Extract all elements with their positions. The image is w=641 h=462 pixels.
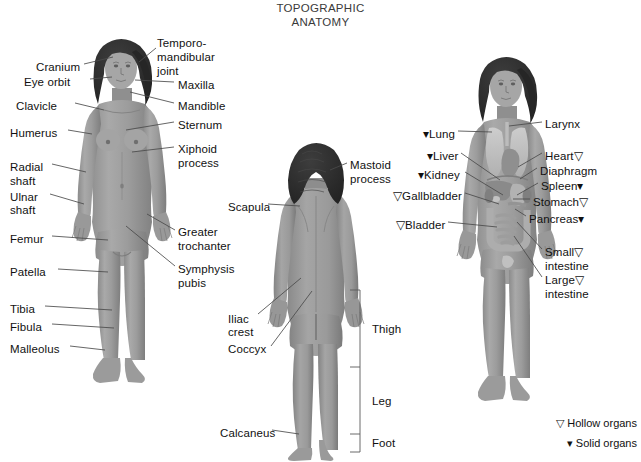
label-pancreas: Pancreas▾ bbox=[529, 213, 584, 227]
label-ulnar-shaft-line1: Ulnar bbox=[10, 191, 38, 205]
label-xiphoid-process-line1: Xiphoid bbox=[178, 143, 217, 157]
label-mastoid-process-line1: Mastoid bbox=[350, 159, 391, 173]
label-lung: ▾Lung bbox=[423, 128, 455, 142]
label-radial-shaft-line1: Radial bbox=[10, 161, 43, 175]
legend-hollow-organs: ▽ Hollow organs bbox=[556, 417, 637, 430]
label-sternum: Sternum bbox=[178, 119, 222, 133]
label-stomach: Stomach▽ bbox=[533, 196, 588, 210]
label-larynx: Larynx bbox=[545, 118, 580, 132]
label-radial-shaft-line2: shaft bbox=[10, 175, 35, 189]
label-coccyx: Coccyx bbox=[228, 343, 266, 357]
label-clavicle: Clavicle bbox=[16, 100, 57, 114]
label-thigh: Thigh bbox=[372, 323, 401, 337]
figure-posterior bbox=[268, 143, 364, 461]
label-eye-orbit: Eye orbit bbox=[24, 76, 70, 90]
label-symphysis-pubis-line2: pubis bbox=[178, 277, 206, 291]
label-leg: Leg bbox=[372, 395, 392, 409]
label-liver: ▾Liver bbox=[427, 150, 459, 164]
label-foot: Foot bbox=[372, 437, 395, 451]
label-diaphragm: Diaphragm bbox=[540, 165, 597, 179]
label-large-intestine-line1: Large▽ bbox=[545, 274, 584, 288]
anatomy-figure-canvas: TOPOGRAPHIC ANATOMY bbox=[0, 0, 641, 462]
label-small-intestine-line1: Small▽ bbox=[545, 246, 583, 260]
label-large-intestine-line2: intestine bbox=[545, 288, 589, 302]
label-bladder: ▽Bladder bbox=[396, 219, 445, 233]
label-patella: Patella bbox=[10, 266, 46, 280]
label-fibula: Fibula bbox=[10, 321, 42, 335]
label-cranium: Cranium bbox=[36, 61, 80, 75]
label-greater-trochanter-line2: trochanter bbox=[178, 240, 231, 254]
label-gallbladder: ▽Gallbladder bbox=[393, 190, 462, 204]
label-scapula: Scapula bbox=[228, 201, 270, 215]
label-maxilla: Maxilla bbox=[178, 79, 215, 93]
label-mandible: Mandible bbox=[178, 100, 225, 114]
label-iliac-crest-line2: crest bbox=[228, 326, 253, 340]
label-humerus: Humerus bbox=[10, 127, 57, 141]
label-mastoid-process-line2: process bbox=[350, 173, 391, 187]
label-temporomandibular-joint-line1: Temporo- bbox=[157, 37, 206, 51]
figure-organs bbox=[457, 57, 557, 401]
label-ulnar-shaft-line2: shaft bbox=[10, 204, 35, 218]
label-malleolus: Malleolus bbox=[10, 343, 59, 357]
label-small-intestine-line2: intestine bbox=[545, 260, 589, 274]
label-symphysis-pubis-line1: Symphysis bbox=[178, 263, 235, 277]
label-femur: Femur bbox=[10, 233, 44, 247]
label-temporomandibular-joint-line2: mandibular bbox=[157, 51, 215, 65]
label-iliac-crest-line1: Iliac bbox=[228, 313, 249, 327]
figures-artwork bbox=[0, 0, 641, 462]
label-greater-trochanter-line1: Greater bbox=[178, 226, 218, 240]
legend-solid-organs: ▾ Solid organs bbox=[567, 437, 637, 450]
label-heart: Heart▽ bbox=[545, 150, 583, 164]
figure-anterior-skeletal bbox=[72, 39, 172, 383]
label-xiphoid-process-line2: process bbox=[178, 157, 219, 171]
label-spleen: Spleen▾ bbox=[541, 180, 584, 194]
label-tibia: Tibia bbox=[10, 303, 35, 317]
label-kidney: ▾Kidney bbox=[418, 169, 460, 183]
label-temporomandibular-joint-line3: joint bbox=[157, 65, 179, 79]
label-calcaneus: Calcaneus bbox=[220, 427, 275, 441]
